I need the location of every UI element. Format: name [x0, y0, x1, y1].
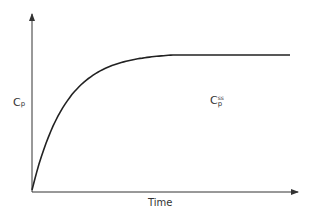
steady-state-label: Cssp — [210, 94, 224, 108]
x-axis-label: Time — [148, 197, 172, 208]
y-axis-label: Cp — [13, 96, 25, 109]
concentration-curve — [32, 55, 290, 190]
chart-canvas — [0, 0, 318, 216]
